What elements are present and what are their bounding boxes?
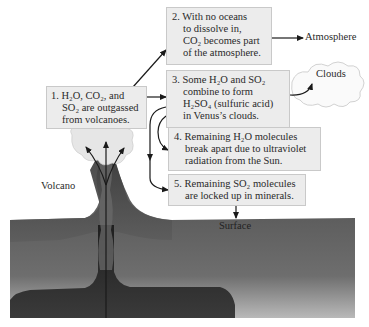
atmosphere-label: Atmosphere	[305, 31, 356, 42]
arrow-1-to-2	[133, 50, 166, 87]
step-3-line-4: in Venus’s clouds.	[172, 110, 284, 122]
step-2-line-4: of the atmosphere.	[172, 47, 266, 59]
step-2-line-3: CO₂ becomes part	[172, 35, 266, 47]
step-2-line-1: With no oceans	[182, 11, 247, 22]
step-1-line-2: SO₂ are outgassed	[51, 102, 142, 114]
step-1-line-3: from volcanoes.	[51, 114, 142, 126]
step-2-box: 2. With no oceans to dissolve in, CO₂ be…	[166, 7, 272, 65]
volcanic-plume	[71, 128, 133, 165]
step-5-line-1: Remaining SO₂ molecules	[185, 178, 296, 189]
bracket-loop-5	[150, 160, 168, 190]
step-5-line-2: are locked up in minerals.	[174, 190, 300, 202]
step-4-line-3: radiation from the Sun.	[174, 155, 315, 167]
step-4-box: 4. Remaining H₂O molecules break apart d…	[168, 127, 321, 171]
volcano-label: Volcano	[41, 180, 75, 191]
step-2-line-2: to dissolve in,	[172, 23, 266, 35]
step-5-box: 5. Remaining SO₂ molecules are locked up…	[168, 174, 306, 206]
step-3-line-2: combine to form	[172, 86, 284, 98]
surface-label: Surface	[219, 220, 251, 231]
step-1-box: 1. H₂O, CO₂, and SO₂ are outgassed from …	[46, 86, 147, 129]
step-4-line-1: Remaining H₂O molecules	[185, 131, 298, 142]
step-3-line-1: Some H₂O and SO₂	[183, 74, 266, 85]
clouds-label: Clouds	[316, 68, 346, 79]
step-4-line-2: break apart due to ultraviolet	[174, 143, 315, 155]
step-3-box: 3. Some H₂O and SO₂ combine to form H₂SO…	[166, 70, 290, 128]
step-3-line-3: H₂SO₄ (sulfuric acid)	[172, 98, 284, 110]
step-1-line-1: H₂O, CO₂, and	[62, 90, 125, 101]
